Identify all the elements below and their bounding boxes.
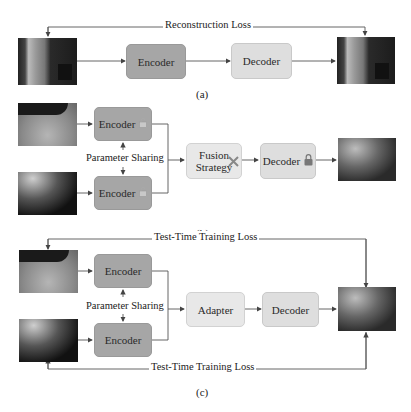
- parameter-sharing-label-c: Parameter Sharing: [84, 300, 166, 311]
- adapter-box: Adapter: [186, 292, 245, 327]
- image-detail: [58, 64, 72, 80]
- parameter-sharing-label-b: Parameter Sharing: [84, 152, 166, 163]
- decoder-box-b: Decoder: [260, 143, 316, 179]
- tools-icon: [228, 156, 239, 169]
- output-image-indoor: [337, 37, 395, 84]
- test-time-loss-bottom-label: Test-Time Training Loss: [149, 361, 256, 372]
- encoder-box-a: Encoder: [126, 44, 186, 79]
- decoder-box-a: Decoder: [231, 43, 292, 79]
- lock-open-icon: [139, 118, 147, 130]
- encoder-box-c-bottom: Encoder: [94, 323, 152, 357]
- input-image-indoor: [18, 38, 77, 85]
- lock-open-icon: [139, 187, 147, 199]
- fusion-label-line2: Strategy: [196, 161, 233, 173]
- encoder-box-b-bottom: Encoder: [94, 176, 152, 210]
- encoder-label: Encoder: [105, 265, 142, 277]
- input-image-dark-c: [19, 319, 78, 362]
- fusion-label-line1: Fusion: [199, 149, 229, 161]
- encoder-box-b-top: Encoder: [94, 107, 152, 141]
- lock-icon: [304, 154, 313, 168]
- image-detail: [18, 103, 68, 115]
- encoder-label: Encoder: [99, 118, 136, 130]
- output-image-fused-c: [338, 287, 396, 331]
- fusion-strategy-box: Fusion Strategy: [186, 143, 242, 179]
- encoder-label: Encoder: [99, 187, 136, 199]
- adapter-label: Adapter: [198, 304, 233, 316]
- decoder-label: Decoder: [272, 304, 309, 316]
- input-image-dark: [18, 172, 77, 215]
- caption-a: (a): [196, 88, 208, 100]
- test-time-loss-top-label: Test-Time Training Loss: [152, 231, 259, 242]
- input-image-bright-c: [19, 250, 78, 293]
- encoder-box-c-top: Encoder: [94, 254, 152, 288]
- decoder-box-c: Decoder: [262, 292, 319, 327]
- caption-c: (c): [196, 386, 208, 398]
- decoder-label: Decoder: [263, 155, 300, 167]
- decoder-label: Decoder: [243, 55, 280, 67]
- reconstruction-loss-label: Reconstruction Loss: [163, 19, 253, 30]
- input-image-bright: [18, 103, 77, 146]
- encoder-label: Encoder: [105, 334, 142, 346]
- output-image-fused-b: [338, 138, 396, 181]
- encoder-label: Encoder: [138, 56, 175, 68]
- image-detail: [375, 63, 389, 79]
- image-detail: [19, 250, 69, 262]
